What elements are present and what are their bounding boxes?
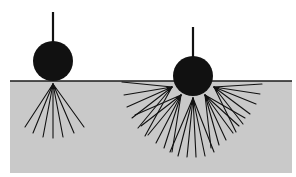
indentation-diagram — [0, 0, 296, 177]
right-indenter-ball — [173, 56, 213, 96]
material-block — [10, 81, 292, 173]
left-indenter-ball — [33, 41, 73, 81]
diagram-canvas — [0, 0, 296, 177]
